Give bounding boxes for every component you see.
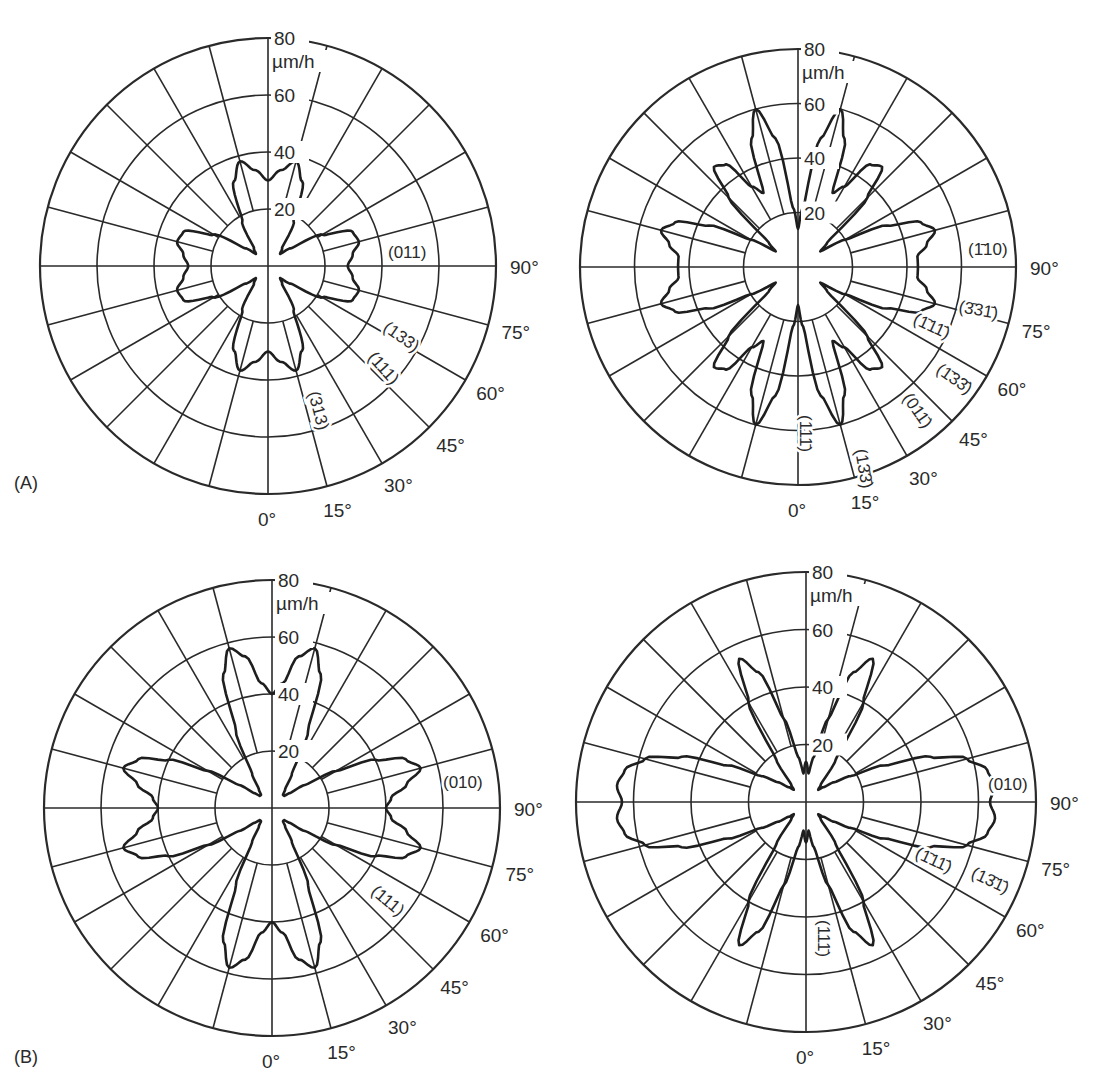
angle-tick-90: 90° <box>1050 793 1079 814</box>
angle-tick-60: 60° <box>480 925 509 946</box>
angle-tick-15: 15° <box>327 1042 356 1063</box>
angle-tick-60: 60° <box>1016 920 1045 941</box>
radial-tick-20: 20 <box>804 203 825 224</box>
polar-chart-a-right: 20406080µm/h0°15°30°45°60°75°90°(1̄10)(3… <box>580 38 1059 521</box>
spoke-line <box>48 281 213 325</box>
radial-tick-60: 60 <box>812 620 833 641</box>
radial-tick-60: 60 <box>274 85 295 106</box>
spoke-line <box>209 46 253 211</box>
angle-tick-45: 45° <box>959 429 988 450</box>
polar-chart-a-left: 20406080µm/h0°15°30°45°60°75°90°(011)(13… <box>40 27 539 530</box>
miller-index-label: (1̄10) <box>968 240 1008 259</box>
radial-tick-80: 80 <box>274 28 295 49</box>
angle-tick-60: 60° <box>998 379 1027 400</box>
polar-plots-canvas: 20406080µm/h0°15°30°45°60°75°90°(011)(13… <box>0 0 1105 1092</box>
spoke-line <box>587 211 745 253</box>
angle-tick-45: 45° <box>440 977 469 998</box>
angle-tick-90: 90° <box>514 799 543 820</box>
spoke-line <box>52 749 217 793</box>
miller-index-label: (1̄11̄) <box>912 843 955 876</box>
angle-tick-45: 45° <box>976 973 1005 994</box>
unit-label: µm/h <box>276 593 319 614</box>
angle-tick-90: 90° <box>510 257 539 278</box>
angle-tick-30: 30° <box>388 1017 417 1038</box>
angle-tick-75: 75° <box>501 322 530 343</box>
angle-tick-75: 75° <box>1041 859 1070 880</box>
radial-tick-80: 80 <box>812 562 833 583</box>
panel-label-a: (A) <box>14 473 38 493</box>
miller-index-label: (011) <box>388 243 426 262</box>
angle-tick-0: 0° <box>262 1051 280 1072</box>
miller-index-label: (13̄3̄) <box>851 447 877 489</box>
angle-tick-15: 15° <box>851 492 880 513</box>
angle-tick-75: 75° <box>1022 321 1051 342</box>
unit-label: µm/h <box>802 62 845 83</box>
miller-index-label: (111) <box>367 882 408 920</box>
angle-tick-15: 15° <box>323 500 352 521</box>
radial-tick-20: 20 <box>278 741 299 762</box>
polar-chart-b-left: 20406080µm/h0°15°30°45°60°75°90°(010)(11… <box>44 569 543 1072</box>
radial-tick-60: 60 <box>278 627 299 648</box>
angle-tick-30: 30° <box>923 1013 952 1034</box>
angle-tick-0: 0° <box>258 509 276 530</box>
radial-tick-80: 80 <box>804 39 825 60</box>
radial-tick-20: 20 <box>274 199 295 220</box>
miller-index-label: (3̄31̄) <box>957 297 999 323</box>
polar-chart-b-right: 20406080µm/h0°15°30°45°60°75°90°(010)(1̄… <box>576 561 1079 1068</box>
spoke-line <box>209 321 253 486</box>
miller-index-label: (010) <box>443 773 483 792</box>
angle-tick-30: 30° <box>909 468 938 489</box>
angle-tick-0: 0° <box>788 500 806 521</box>
radial-tick-20: 20 <box>812 735 833 756</box>
radial-tick-40: 40 <box>278 684 299 705</box>
miller-index-label: (13̄1̄) <box>968 863 1012 897</box>
angle-tick-0: 0° <box>796 1047 814 1068</box>
miller-index-label: (111̄) <box>814 920 833 957</box>
radial-tick-40: 40 <box>812 677 833 698</box>
radial-tick-40: 40 <box>274 142 295 163</box>
panel-label-b: (B) <box>14 1047 38 1067</box>
angle-tick-90: 90° <box>1030 258 1059 279</box>
miller-index-label: (011̄) <box>899 389 937 431</box>
miller-index-label: (010) <box>988 775 1028 794</box>
angle-tick-45: 45° <box>436 435 465 456</box>
miller-index-label: (313) <box>304 389 333 432</box>
spoke-line <box>327 823 492 867</box>
miller-index-label: (111̄) <box>796 415 815 452</box>
angle-tick-60: 60° <box>476 383 505 404</box>
unit-label: µm/h <box>272 51 315 72</box>
angle-tick-30: 30° <box>384 475 413 496</box>
spoke-line <box>52 823 217 867</box>
spoke-line <box>48 207 213 251</box>
radial-tick-40: 40 <box>804 148 825 169</box>
angle-tick-15: 15° <box>862 1038 891 1059</box>
spoke-line <box>323 281 488 325</box>
unit-label: µm/h <box>810 585 853 606</box>
miller-index-label: (1̄11̄) <box>910 309 953 342</box>
radial-tick-60: 60 <box>804 94 825 115</box>
angle-tick-75: 75° <box>505 864 534 885</box>
spoke-line <box>587 281 745 323</box>
radial-tick-80: 80 <box>278 570 299 591</box>
